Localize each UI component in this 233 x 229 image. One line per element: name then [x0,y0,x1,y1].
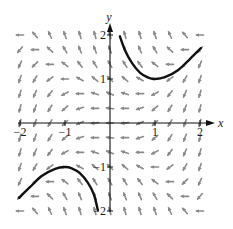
slope-arrow-icon [167,47,172,52]
y-axis-label: y [105,10,112,24]
slope-arrow-icon [33,208,38,214]
slope-arrow-icon [19,90,21,97]
y-tick-label: 1 [100,72,106,86]
slope-arrow-icon [183,208,188,214]
slope-arrow-icon [152,92,158,95]
slope-arrow-icon [63,47,67,53]
slope-arrow-icon [198,61,201,68]
slope-arrow-icon [77,137,84,139]
slope-arrow-icon [48,149,52,155]
slope-arrow-icon [94,32,96,39]
slope-arrow-icon [93,179,97,185]
slope-arrow-icon [34,149,37,156]
slope-arrow-icon [124,193,127,200]
slope-arrow-icon [92,151,99,153]
slope-arrow-icon [153,193,157,199]
slope-arrow-icon [19,76,21,83]
x-axis-arrow-icon [206,120,215,126]
slope-arrow-icon [47,165,53,169]
slope-arrow-icon [139,208,141,215]
slope-arrow-icon [183,164,187,170]
slope-arrow-icon [123,61,127,67]
slope-arrow-icon [184,90,187,97]
slope-arrow-icon [139,193,142,200]
slope-arrow-icon [77,77,83,80]
slope-arrow-icon [48,91,52,97]
slope-arrow-icon [168,91,172,97]
slope-arrow-icon [137,137,144,139]
slope-arrow-icon [79,208,81,215]
slope-arrow-icon [19,105,21,112]
slope-arrow-icon [92,77,97,82]
slope-arrow-icon [18,178,21,185]
slope-arrow-icon [79,32,81,39]
slope-arrow-icon [78,179,82,185]
slope-arrow-icon [122,93,129,95]
slope-arrow-icon [33,76,37,82]
slope-arrow-icon [137,107,144,109]
slope-arrow-icon [34,105,37,112]
x-tick-label: 1 [152,125,158,139]
slope-arrow-icon [183,32,188,38]
slope-arrow-icon [139,46,142,53]
slope-arrow-icon [124,208,126,215]
slope-arrow-icon [152,62,158,66]
slope-arrow-icon [167,77,173,81]
axes [18,23,215,212]
x-tick-label: −1 [59,125,72,139]
slope-arrow-icon [198,194,203,200]
slope-arrow-icon [124,32,126,39]
slope-arrow-icon [199,149,201,156]
slope-arrow-icon [198,178,201,185]
slope-arrow-icon [33,32,38,38]
slope-arrow-icon [137,165,143,168]
slope-arrow-icon [47,194,52,199]
slope-arrow-icon [199,90,201,97]
slope-arrow-icon [48,105,52,111]
slope-arrow-icon [64,208,66,215]
slope-arrow-icon [138,179,142,185]
slope-arrow-icon [199,76,201,83]
slope-arrow-icon [138,61,142,67]
slope-arrow-icon [122,151,129,153]
slope-arrow-icon [47,77,53,81]
slope-arrow-icon [48,135,52,141]
slope-arrow-icon [168,208,171,215]
slope-arrow-icon [77,107,84,109]
slope-arrow-icon [34,90,37,97]
slope-arrow-icon [18,47,23,53]
slope-arrow-icon [62,106,67,111]
slope-arrow-icon [48,208,51,215]
slope-arrow-icon [184,105,187,112]
slope-arrow-icon [62,179,68,183]
slope-arrow-icon [152,179,158,183]
y-tick-label: 2 [100,28,106,42]
slope-arrow-icon [153,47,157,53]
slope-arrow-icon [92,93,99,95]
slope-arrow-icon [167,194,172,199]
slope-arrow-icon [184,134,187,141]
slope-arrow-icon [63,193,67,199]
lower-solution-curve [19,167,98,210]
x-axis-label: x [217,116,224,130]
slope-arrow-icon [33,164,37,170]
slope-arrow-icon [184,149,187,156]
slope-arrow-icon [137,77,143,80]
slope-arrow-icon [48,32,51,39]
slope-arrow-icon [62,151,68,154]
slope-arrow-icon [199,164,201,171]
slope-arrow-icon [79,46,82,53]
axis-labels: −2−11221−1−2xy [14,10,224,218]
slope-arrow-icon [199,105,201,112]
slope-arrow-icon [77,165,83,168]
slope-arrow-icon [122,165,127,170]
slope-arrow-icon [168,149,172,155]
slope-arrow-icon [123,179,127,185]
slope-arrow-icon [168,135,172,141]
slope-field-chart: −2−11221−1−2xy [0,0,233,229]
y-axis-arrow-icon [107,23,113,32]
y-tick-label: −2 [93,204,106,218]
slope-arrow-icon [47,47,52,52]
slope-arrow-icon [62,92,68,95]
slope-arrow-icon [152,151,158,154]
